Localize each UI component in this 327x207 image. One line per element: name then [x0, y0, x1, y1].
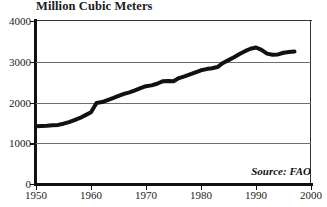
gridline-y-1000	[36, 143, 311, 144]
x-axis-line	[34, 183, 313, 186]
y-tick-label-4000: 4000	[9, 15, 31, 27]
x-tick-label-2000: 2000	[300, 189, 322, 201]
gridline-y-3000	[36, 62, 311, 63]
y-tick-label-1000: 1000	[9, 137, 31, 149]
plot-border-top	[36, 20, 312, 21]
x-tick-label-1950: 1950	[25, 189, 47, 201]
gridline-y-2000	[36, 103, 311, 104]
chart-figure: Million Cubic Meters 40003000200010000 1…	[0, 0, 327, 207]
x-tick-label-1960: 1960	[80, 189, 102, 201]
y-tick-label-2000: 2000	[9, 97, 31, 109]
source-annotation: Source: FAO	[251, 165, 311, 177]
y-tick-label-3000: 3000	[9, 56, 31, 68]
x-tick-label-1990: 1990	[245, 189, 267, 201]
x-tick-label-1980: 1980	[190, 189, 212, 201]
chart-title: Million Cubic Meters	[36, 0, 153, 14]
x-tick-label-1970: 1970	[135, 189, 157, 201]
